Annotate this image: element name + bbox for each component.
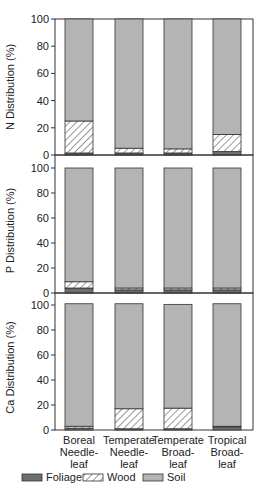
legend-item-soil: Soil <box>143 471 185 483</box>
bar-1 <box>115 304 143 430</box>
bar-segment-foliage <box>65 288 93 293</box>
y-tick-label: 80 <box>37 40 49 52</box>
y-tick-label: 20 <box>37 122 49 134</box>
bar-2 <box>164 304 192 430</box>
category-label: TemperateBroad-leaf <box>152 434 204 470</box>
legend-swatch <box>22 474 42 481</box>
bar-segment-soil <box>115 19 143 148</box>
legend-label: Wood <box>107 471 136 483</box>
y-tick-label: 60 <box>37 212 49 224</box>
panel-ca: 020406080100Ca Distribution (%) <box>4 293 253 436</box>
y-tick-label: 40 <box>37 237 49 249</box>
bar-3 <box>213 168 241 293</box>
y-tick-label: 0 <box>43 149 49 161</box>
category-label: TemperateNeedle-leaf <box>103 434 155 470</box>
y-tick-label: 40 <box>37 374 49 386</box>
category-label: BorealNeedle-leaf <box>60 434 99 470</box>
bar-3 <box>213 304 241 430</box>
bar-segment-soil <box>115 304 143 409</box>
y-tick-label: 0 <box>43 424 49 436</box>
y-tick-label: 20 <box>37 399 49 411</box>
bar-segment-foliage <box>213 152 241 155</box>
bar-segment-wood <box>115 148 143 153</box>
y-tick-label: 100 <box>31 299 49 311</box>
legend-item-foliage: Foliage <box>22 471 82 483</box>
legend-item-wood: Wood <box>83 471 136 483</box>
bar-segment-soil <box>213 304 241 427</box>
y-axis-label: N Distribution (%) <box>4 44 16 130</box>
bar-segment-soil <box>65 304 93 427</box>
bar-segment-soil <box>164 304 192 408</box>
bar-segment-soil <box>115 168 143 288</box>
y-axis-label: P Distribution (%) <box>4 188 16 273</box>
bar-0 <box>65 19 93 155</box>
legend-label: Foliage <box>46 471 82 483</box>
bar-segment-soil <box>213 19 241 135</box>
legend-swatch <box>143 474 163 481</box>
bar-segment-wood <box>213 135 241 152</box>
bar-1 <box>115 168 143 293</box>
legend-label: Soil <box>167 471 185 483</box>
category-label: TropicalBroad-leaf <box>208 434 247 470</box>
bar-0 <box>65 304 93 430</box>
bar-segment-soil <box>164 19 192 149</box>
bar-segment-soil <box>65 168 93 282</box>
y-tick-label: 20 <box>37 262 49 274</box>
y-tick-label: 80 <box>37 187 49 199</box>
bar-segment-soil <box>164 168 192 288</box>
y-tick-label: 0 <box>43 287 49 299</box>
bar-0 <box>65 168 93 293</box>
y-tick-label: 80 <box>37 324 49 336</box>
bar-segment-foliage <box>213 427 241 430</box>
legend-swatch <box>83 474 103 481</box>
y-axis-label: Ca Distribution (%) <box>4 321 16 413</box>
y-tick-label: 40 <box>37 95 49 107</box>
panel-n: 020406080100N Distribution (%) <box>4 13 253 161</box>
bar-1 <box>115 19 143 155</box>
bar-segment-wood <box>115 409 143 429</box>
bar-segment-soil <box>65 19 93 121</box>
bar-segment-wood <box>65 282 93 288</box>
bar-3 <box>213 19 241 155</box>
panel-p: 020406080100P Distribution (%) <box>4 155 253 299</box>
bar-segment-wood <box>164 149 192 153</box>
nutrient-distribution-chart: 020406080100N Distribution (%)0204060801… <box>0 0 266 496</box>
y-tick-label: 60 <box>37 349 49 361</box>
y-tick-label: 100 <box>31 13 49 25</box>
y-tick-label: 60 <box>37 67 49 79</box>
bar-segment-wood <box>164 408 192 429</box>
bar-2 <box>164 168 192 293</box>
bar-segment-wood <box>65 121 93 153</box>
bar-2 <box>164 19 192 155</box>
y-tick-label: 100 <box>31 162 49 174</box>
bar-segment-soil <box>213 168 241 288</box>
